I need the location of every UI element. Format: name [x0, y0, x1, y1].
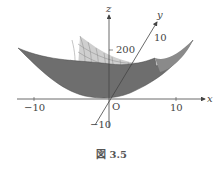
figure-caption: 図 3.5 — [0, 146, 223, 161]
x-pos-tick-label: 10 — [170, 103, 183, 113]
surface-plot — [0, 0, 223, 140]
z-axis-label: z — [106, 4, 111, 14]
x-neg-tick-label: −10 — [24, 103, 45, 113]
surface-fold — [155, 40, 193, 72]
x-axis-label: x — [207, 94, 213, 104]
y-neg-tick-label: −10 — [90, 120, 111, 130]
y-pos-tick-label: 10 — [154, 33, 167, 43]
z-tick-label: 200 — [116, 45, 135, 55]
origin-label: O — [112, 102, 120, 112]
y-axis-label: y — [157, 10, 163, 20]
